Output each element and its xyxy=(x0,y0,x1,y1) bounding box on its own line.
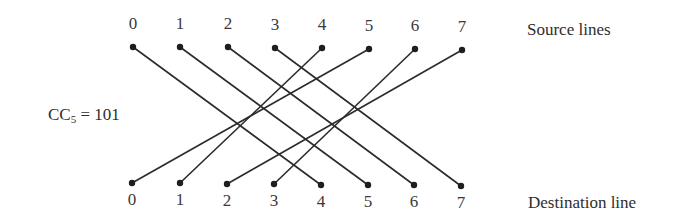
connection-line-5-to-0 xyxy=(132,49,369,183)
destination-node-label-4: 4 xyxy=(317,193,326,210)
destination-line-label: Destination line xyxy=(528,194,636,211)
destination-node-dot-6 xyxy=(411,182,417,188)
source-node-dot-2 xyxy=(225,44,231,50)
source-node-label-5: 5 xyxy=(365,17,374,34)
source-lines-label: Source lines xyxy=(527,21,611,38)
destination-node-label-7: 7 xyxy=(457,194,466,211)
control-code-equals: = xyxy=(76,105,94,124)
destination-node-label-1: 1 xyxy=(176,191,185,208)
source-node-label-3: 3 xyxy=(271,16,280,33)
connection-line-0-to-4 xyxy=(133,47,321,185)
source-node-label-4: 4 xyxy=(318,16,327,33)
source-node-label-1: 1 xyxy=(176,15,185,32)
control-code-label: CC5 = 101 xyxy=(48,106,120,125)
source-node-dot-5 xyxy=(366,46,372,52)
destination-node-dot-4 xyxy=(318,182,324,188)
source-node-dot-1 xyxy=(177,44,183,50)
source-node-dot-3 xyxy=(272,45,278,51)
destination-node-label-3: 3 xyxy=(270,192,279,209)
source-node-label-6: 6 xyxy=(411,17,420,34)
source-node-label-7: 7 xyxy=(458,18,467,35)
destination-node-dot-5 xyxy=(365,182,371,188)
destination-node-dot-3 xyxy=(271,181,277,187)
connection-line-2-to-6 xyxy=(228,47,414,185)
source-node-dot-7 xyxy=(459,47,465,53)
source-node-label-2: 2 xyxy=(224,15,233,32)
destination-node-dot-7 xyxy=(458,183,464,189)
source-node-dot-4 xyxy=(319,45,325,51)
destination-node-label-5: 5 xyxy=(364,193,373,210)
connection-line-3-to-7 xyxy=(275,48,461,186)
destination-node-dot-0 xyxy=(129,180,135,186)
destination-node-label-0: 0 xyxy=(128,191,137,208)
destination-node-dot-1 xyxy=(177,180,183,186)
source-node-dot-6 xyxy=(412,46,418,52)
connection-line-7-to-2 xyxy=(227,50,462,184)
connection-lines xyxy=(132,47,462,186)
destination-node-label-6: 6 xyxy=(410,193,419,210)
destination-node-dot-2 xyxy=(224,181,230,187)
control-code-value: 101 xyxy=(94,105,120,124)
destination-node-label-2: 2 xyxy=(223,192,232,209)
source-node-label-0: 0 xyxy=(129,15,138,32)
source-node-dot-0 xyxy=(130,44,136,50)
control-code-prefix: CC xyxy=(48,105,71,124)
connection-line-1-to-5 xyxy=(180,47,368,185)
